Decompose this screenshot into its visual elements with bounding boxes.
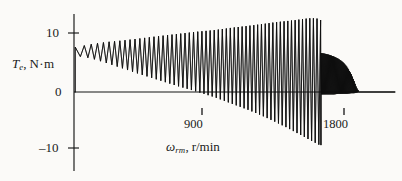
x-axis-title-units: r/min [192,139,220,154]
y-axis-title-separator: , [23,56,26,71]
x-axis-title-subscript: rm [175,145,185,155]
x-axis-title-symbol: ω [166,139,175,154]
y-axis-title: Te,N·m [12,57,54,72]
y-axis-title-units: N·m [30,56,55,71]
y-tick-label-10: 10 [46,26,59,39]
x-tick-label-1800: 1800 [323,118,348,131]
x-tick-label-900: 900 [184,118,203,131]
x-axis-title-separator: , [185,139,188,154]
figure-container: 10 0 –10 900 1800 Te,N·m ωrm,r/min [0,0,402,181]
y-tick-label-0: 0 [55,85,62,98]
y-tick-label-neg10: –10 [39,141,59,154]
x-axis-title: ωrm,r/min [166,140,220,155]
